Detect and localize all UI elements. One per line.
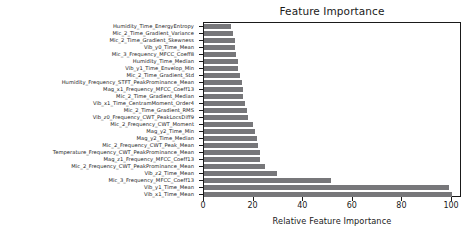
- y-axis-tick-label: Mag_x1_Frequency_MFCC_Coeff13: [103, 86, 194, 92]
- bar: [204, 129, 255, 133]
- bar-row: [204, 171, 460, 175]
- y-axis-tick-label: Vib_x1_Time_Mean: [144, 191, 194, 197]
- bar-row: [204, 164, 460, 168]
- x-axis-tick-label: 20: [248, 201, 258, 210]
- bar: [204, 94, 243, 98]
- bar-row: [204, 129, 460, 133]
- y-axis-tick-label: Mic_2_Time_Gradient_Std: [127, 72, 195, 78]
- bar-row: [204, 45, 460, 49]
- y-axis-tick-label: Mic_2_Frequency_CWT_Moment: [110, 121, 194, 127]
- bar: [204, 185, 449, 189]
- y-axis-tick: [199, 180, 203, 181]
- bar-row: [204, 108, 460, 112]
- y-axis-tick-label: Mic_2_Frequency_CWT_PeakProminance_Mean: [71, 163, 194, 169]
- y-axis-tick: [199, 75, 203, 76]
- bar: [204, 38, 235, 42]
- bar-row: [204, 150, 460, 154]
- y-axis-tick-label: Vib_y0_Time_Mean: [144, 44, 194, 50]
- y-axis-tick: [199, 173, 203, 174]
- y-axis-tick: [199, 187, 203, 188]
- x-axis-tick: [352, 197, 353, 201]
- bar: [204, 101, 245, 105]
- x-axis-tick: [451, 197, 452, 201]
- bar-row: [204, 115, 460, 119]
- y-axis-tick-label: Humidity_Time_EnergyEntropy: [113, 23, 194, 29]
- y-axis-tick-label: Mag_y2_Time_Min: [146, 128, 194, 134]
- chart-title: Feature Importance: [203, 5, 461, 17]
- bar: [204, 157, 260, 161]
- bar-row: [204, 24, 460, 28]
- bar: [204, 73, 240, 77]
- bar: [204, 178, 331, 182]
- bar: [204, 108, 247, 112]
- bar-row: [204, 73, 460, 77]
- bar: [204, 80, 242, 84]
- bar: [204, 66, 238, 70]
- bar-row: [204, 192, 460, 196]
- x-axis-tick-label: 0: [200, 201, 205, 210]
- bar: [204, 59, 238, 63]
- bar: [204, 115, 248, 119]
- bar: [204, 164, 265, 168]
- plot-area: [203, 22, 461, 197]
- feature-importance-chart: Feature Importance Humidity_Time_EnergyE…: [0, 0, 474, 236]
- bar: [204, 31, 233, 35]
- bar: [204, 122, 253, 126]
- bar-row: [204, 136, 460, 140]
- x-axis-tick: [401, 197, 402, 201]
- bar-row: [204, 66, 460, 70]
- x-axis-title: Relative Feature Importance: [203, 216, 461, 226]
- bar-row: [204, 143, 460, 147]
- y-axis-tick-label: Mic_3_Frequency_MFCC_Coeff8: [112, 51, 194, 57]
- y-axis-tick: [199, 26, 203, 27]
- y-axis-tick: [199, 61, 203, 62]
- y-axis-tick-label: Vib_y1_Time_Mean: [144, 184, 194, 190]
- y-axis-tick-label: Mic_2_Time_Gradient_Skewness: [109, 37, 194, 43]
- y-axis-tick: [199, 54, 203, 55]
- bar: [204, 24, 231, 28]
- bar-row: [204, 178, 460, 182]
- y-axis-tick: [199, 117, 203, 118]
- bar: [204, 87, 243, 91]
- x-axis-tick: [302, 197, 303, 201]
- bar-row: [204, 87, 460, 91]
- bar-row: [204, 38, 460, 42]
- y-axis-tick-label: Humidity_Frequency_STFT_PeakProminance_M…: [62, 79, 194, 85]
- y-axis-tick: [199, 96, 203, 97]
- bar-row: [204, 59, 460, 63]
- x-axis-tick-label: 100: [443, 201, 458, 210]
- y-axis-tick-label: Mag_y2_Time_Median: [136, 135, 194, 141]
- y-axis-tick: [199, 33, 203, 34]
- y-axis-tick-label: Vib_z2_Time_Mean: [144, 170, 194, 176]
- y-axis-tick: [199, 194, 203, 195]
- y-axis-tick-label: Mag_z1_Frequency_MFCC_Coeff13: [103, 156, 194, 162]
- bar: [204, 150, 260, 154]
- y-axis-tick: [199, 152, 203, 153]
- bar-row: [204, 31, 460, 35]
- y-axis-tick: [199, 124, 203, 125]
- x-axis-tick-label: 40: [297, 201, 307, 210]
- bar-row: [204, 185, 460, 189]
- y-axis-tick-label: Mic_2_Frequency_CWT_Peak_Mean: [102, 142, 194, 148]
- y-axis-tick: [199, 89, 203, 90]
- y-axis-tick: [199, 82, 203, 83]
- y-axis-tick: [199, 159, 203, 160]
- y-axis-tick-label: Mic_3_Frequency_MFCC_Coeff13: [108, 177, 194, 183]
- y-axis-tick: [199, 47, 203, 48]
- y-axis-tick-label: Vib_y1_Time_Envelop_Min: [125, 65, 194, 71]
- y-axis-tick: [199, 138, 203, 139]
- bar-row: [204, 94, 460, 98]
- bar-row: [204, 80, 460, 84]
- y-axis-tick: [199, 145, 203, 146]
- y-axis-tick: [199, 110, 203, 111]
- y-axis-tick-label: Mic_2_Time_Gradient_Variance: [112, 30, 194, 36]
- y-axis-tick: [199, 131, 203, 132]
- bars-layer: [204, 23, 460, 196]
- bar: [204, 143, 258, 147]
- x-axis-tick: [253, 197, 254, 201]
- y-axis-tick-label: Temperature_Frequency_CWT_PeakProminance…: [53, 149, 194, 155]
- bar: [204, 192, 452, 196]
- y-axis-tick: [199, 40, 203, 41]
- bar-row: [204, 157, 460, 161]
- bar-row: [204, 101, 460, 105]
